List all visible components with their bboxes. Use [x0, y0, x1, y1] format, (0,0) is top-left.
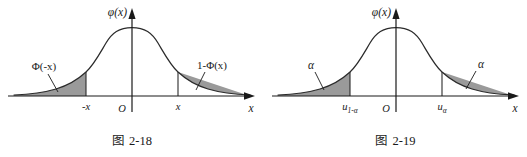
- y-axis-arrow-icon: [392, 8, 399, 19]
- figure-2-19: φ(x) x O u1-α uα α α 图 2-19: [264, 0, 527, 157]
- left-tail-area-label: α: [307, 59, 314, 71]
- x-axis-arrow-icon: [508, 92, 519, 99]
- origin-label: O: [118, 103, 126, 114]
- left-tail-label-leader: [315, 72, 324, 90]
- tick-label-neg-x: -x: [82, 101, 90, 112]
- caption-number: 2-18: [129, 134, 152, 148]
- y-axis-arrow-icon: [128, 8, 135, 19]
- figure-2-18-caption: 图 2-18: [0, 130, 264, 149]
- tick-label-pos-x: x: [175, 101, 181, 112]
- left-tail-shaded-area: [14, 72, 86, 96]
- left-tail-shaded-area: [278, 72, 350, 96]
- right-tail-area-label: α: [477, 58, 484, 70]
- tick-sub-one-minus-alpha: 1-α: [347, 106, 358, 115]
- figure-2-19-caption: 图 2-19: [264, 130, 527, 149]
- left-tail-area-label: Φ(-x): [32, 60, 57, 73]
- tick-label-u-alpha: uα: [437, 101, 447, 115]
- caption-number: 2-19: [393, 134, 416, 148]
- caption-prefix: 图: [375, 134, 389, 148]
- tick-label-u-one-minus-alpha: u1-α: [342, 101, 358, 115]
- figure-2-19-plot: φ(x) x O u1-α uα α α: [264, 0, 527, 132]
- figure-2-18: φ(x) x O -x x Φ(-x) 1-Φ(x) 图 2-18: [0, 0, 264, 157]
- origin-label: O: [382, 103, 390, 114]
- right-tail-shaded-area: [442, 72, 514, 96]
- figure-2-18-plot: φ(x) x O -x x Φ(-x) 1-Φ(x): [0, 0, 264, 132]
- tick-sub-alpha: α: [442, 106, 447, 115]
- figure-pair: φ(x) x O -x x Φ(-x) 1-Φ(x) 图 2-18: [0, 0, 527, 157]
- right-tail-shaded-area: [178, 72, 250, 96]
- y-axis-label: φ(x): [371, 6, 390, 19]
- x-axis-label: x: [247, 102, 254, 114]
- caption-prefix: 图: [112, 134, 126, 148]
- y-axis-label: φ(x): [108, 6, 127, 19]
- x-axis-arrow-icon: [244, 92, 255, 99]
- x-axis-label: x: [511, 102, 518, 114]
- right-tail-area-label: 1-Φ(x): [197, 59, 227, 72]
